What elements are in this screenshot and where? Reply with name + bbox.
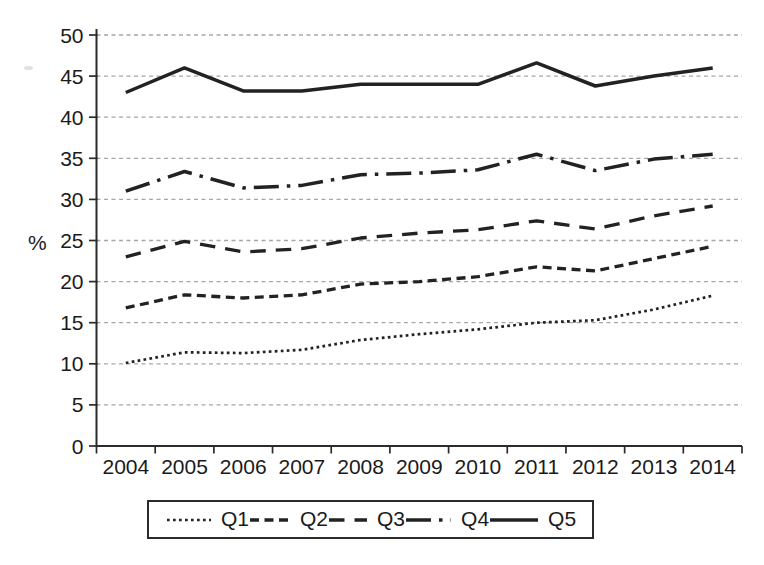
legend-label: Q1 [221,508,249,531]
y-tick-label-30: 30 [60,188,83,211]
legend-item-q4: Q4 [405,508,489,531]
legend-label: Q5 [548,508,576,531]
legend-item-q1: Q1 [166,508,249,531]
legend-item-q2: Q2 [249,508,328,531]
legend-swatch-medium-dash-icon [328,515,368,525]
chart-legend: Q1Q2Q3Q4Q5 [147,500,594,539]
legend-label: Q3 [377,508,405,531]
x-tick-label-2009: 2009 [396,455,443,478]
x-tick-label-2005: 2005 [161,455,208,478]
legend-swatch-short-dash-icon [249,515,291,525]
y-tick-label-15: 15 [60,311,83,334]
y-tick-label-35: 35 [60,147,83,170]
y-tick-label-0: 0 [72,435,84,458]
y-tick-label-5: 5 [72,393,84,416]
x-tick-label-2010: 2010 [455,455,502,478]
x-tick-label-2011: 2011 [514,455,559,478]
y-axis-unit-label: % [28,231,47,255]
y-tick-label-20: 20 [60,270,83,293]
legend-label: Q4 [461,508,489,531]
y-tick-label-40: 40 [60,106,83,129]
series-layer [126,63,713,363]
legend-item-q3: Q3 [328,508,405,531]
x-tick-label-2004: 2004 [102,455,149,478]
legend-swatch-dotted-icon [166,515,212,525]
series-line-q4 [126,154,713,191]
legend-swatch-solid-icon [489,515,539,525]
legend-label: Q2 [300,508,328,531]
x-tick-label-2007: 2007 [279,455,326,478]
series-line-q2 [126,246,713,308]
axis-labels-layer: 0510152025303540455020042005200620072008… [60,24,736,479]
series-line-q3 [126,206,713,257]
series-line-q5 [126,63,713,93]
y-tick-label-45: 45 [60,65,83,88]
y-tick-label-50: 50 [60,24,83,47]
x-tick-label-2013: 2013 [631,455,678,478]
x-tick-label-2008: 2008 [337,455,384,478]
x-tick-label-2014: 2014 [689,455,736,478]
x-tick-label-2006: 2006 [220,455,267,478]
line-chart: 0510152025303540455020042005200620072008… [0,0,764,565]
scanned-chart-page: 0510152025303540455020042005200620072008… [0,0,764,565]
gridlines-layer [97,35,743,405]
x-tick-label-2012: 2012 [572,455,619,478]
series-line-q1 [126,296,713,363]
legend-item-q5: Q5 [489,508,576,531]
legend-swatch-long-dash-dot-icon [405,515,452,525]
y-tick-label-25: 25 [60,229,83,252]
y-tick-label-10: 10 [60,352,83,375]
